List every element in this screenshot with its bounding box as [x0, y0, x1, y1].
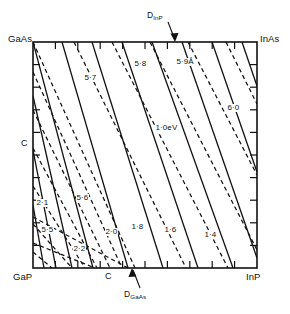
contour-label-5-5: 5·5 [41, 226, 54, 234]
figure-contour-diagram: GaAs InAs GaP InP C C DInP DGaAs 5·7 5·8… [0, 0, 290, 314]
contour-label-2-0: 2·0 [105, 228, 118, 236]
d-gaas-callout-arrow [129, 268, 141, 288]
callout-d-inp-sub: InP [153, 14, 163, 21]
contour-label-5-7: 5·7 [84, 74, 97, 82]
contour-label-1-4: 1·4 [204, 231, 217, 239]
corner-label-gap: GaP [13, 272, 32, 282]
contour-label-2-1: 2·1 [36, 199, 49, 207]
corner-label-inp: InP [246, 272, 261, 282]
contour-label-5-6: 5·6 [76, 194, 89, 202]
contour-label-2-2: 2·2 [73, 245, 86, 253]
callout-label-d-inp: DInP [147, 11, 163, 20]
lattice-constant-contours [33, 42, 257, 268]
contour-label-1-0ev: 1·0eV [155, 124, 178, 132]
plot-canvas [0, 0, 290, 314]
contour-label-1-8: 1·8 [131, 223, 144, 231]
callout-label-d-gaas: DGaAs [124, 290, 146, 299]
left-axis-c-marker: C [21, 139, 28, 148]
d-inp-callout-arrow [168, 22, 179, 42]
callout-d-gaas-sub: GaAs [130, 293, 146, 300]
top-axis-ticks [55, 42, 234, 49]
contour-label-5-9a: 5·9Å [176, 58, 194, 66]
corner-label-gaas: GaAs [8, 34, 32, 44]
bottom-axis-c-marker: C [105, 272, 112, 281]
contour-label-5-8: 5·8 [134, 60, 147, 68]
contour-label-1-6: 1·6 [164, 226, 177, 234]
contour-label-6-0: 6·0 [227, 104, 240, 112]
corner-label-inas: InAs [260, 34, 279, 44]
